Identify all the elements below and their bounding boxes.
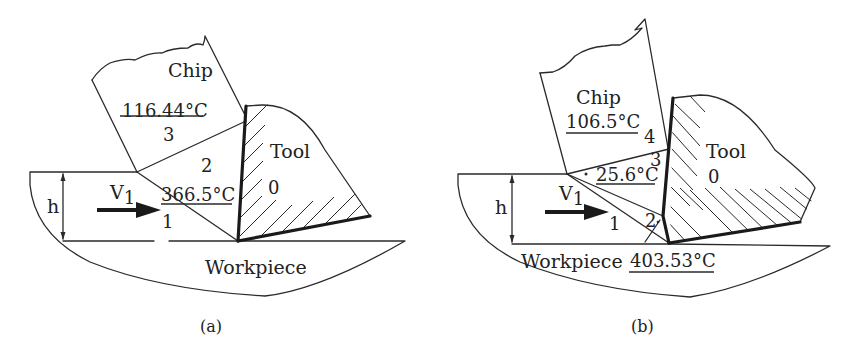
velocity-label-a: V1 xyxy=(109,181,135,208)
chip-label-a: Chip xyxy=(168,59,213,81)
tool-label-a: Tool xyxy=(270,140,310,162)
thickness-arrow-bottom-b xyxy=(510,235,515,243)
zone-2-marker-dot-b xyxy=(657,221,660,224)
tool-rake-face-a xyxy=(238,106,246,241)
thickness-arrow-top-a xyxy=(61,173,66,181)
zone-boundary-3-2-a xyxy=(137,121,246,172)
caption-b: (b) xyxy=(631,317,654,336)
thickness-arrow-bottom-a xyxy=(61,232,66,240)
tool-hatching-b xyxy=(668,96,820,248)
thickness-label-a: h xyxy=(47,195,59,217)
zone-3-marker-dot-b xyxy=(585,173,588,176)
zone-2-temperature-b: 403.53°C xyxy=(630,250,716,271)
tool-hatching-a xyxy=(240,104,370,237)
thickness-arrow-top-b xyxy=(510,175,515,183)
tool-rake-face-b xyxy=(663,98,673,243)
zone-0-label-a: 0 xyxy=(268,177,279,198)
tool-flank-face-a xyxy=(238,216,370,241)
zone-4-label-b: 4 xyxy=(644,126,655,147)
zone-1-label-b: 1 xyxy=(609,213,620,234)
caption-a: (a) xyxy=(200,317,222,336)
chip-left-edge-a xyxy=(92,80,137,172)
zone-1-label-a: 1 xyxy=(162,211,173,232)
zone-3-temperature-a: 116.44°C xyxy=(122,100,208,121)
cutting-zone-diagram: h V1 Chip 116.44°C 3 2 366.5°C 1 Tool 0 … xyxy=(0,0,859,357)
velocity-label-b: V1 xyxy=(558,182,584,209)
panel-a: h V1 Chip 116.44°C 3 2 366.5°C 1 Tool 0 … xyxy=(30,36,405,336)
chip-left-edge-b xyxy=(540,73,567,174)
chip-label-b: Chip xyxy=(576,86,621,108)
zone-2-temperature-a: 366.5°C xyxy=(161,184,235,205)
workpiece-label-a: Workpiece xyxy=(205,256,307,278)
zone-3-label-a: 3 xyxy=(163,124,174,145)
zone-0-label-b: 0 xyxy=(708,166,719,187)
workpiece-label-b: Workpiece xyxy=(521,250,623,272)
tool-label-b: Tool xyxy=(706,140,746,162)
zone-2-label-b: 2 xyxy=(645,210,656,231)
zone-4-temperature-b: 106.5°C xyxy=(566,111,640,132)
zone-boundary-1-2-a xyxy=(137,172,238,241)
zone-3-temperature-b: 25.6°C xyxy=(596,164,659,185)
panel-b: h V1 Chip 106.5°C 4 3 25.6°C 1 2 Tool 0 … xyxy=(458,19,830,336)
thickness-label-b: h xyxy=(495,196,507,218)
zone-2-label-a: 2 xyxy=(201,155,212,176)
